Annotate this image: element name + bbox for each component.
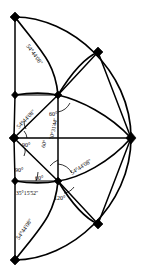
label-right-arc: 54°44'08'' [69, 158, 92, 176]
label-center-90-upper: 90° [22, 142, 31, 148]
label-lower-35: 35°15'52'' [16, 190, 38, 196]
geometry-svg: 54°44'08'' 54°44'08'' 60° 90° 70°31'44''… [0, 0, 141, 278]
inner-arc-lower-right [58, 138, 131, 181]
angle-arc-60-upper [58, 103, 70, 112]
label-upper-left-arc: 54°44'08'' [25, 43, 44, 66]
angle-arc-90-upper [24, 131, 27, 138]
node-mid-left-upper [12, 91, 19, 99]
inner-arc-upper-right [58, 95, 131, 138]
label-upper-inner-60: 60° [49, 111, 58, 117]
label-lower-120: 120° [54, 195, 66, 201]
edge-arc-lower-to-right [98, 138, 131, 224]
label-inner-60-vertical: 60° [40, 139, 47, 148]
node-mid-left-lower [12, 177, 19, 185]
edge-left-spine-mid-lower [14, 138, 15, 181]
edge-inner-upper-to-arc-node [58, 52, 98, 95]
label-lower-left-arc: 54°44'08'' [15, 218, 33, 241]
edge-arc-upper-to-right [98, 52, 131, 138]
edge-inner-lower-to-arc-node [58, 181, 98, 224]
geometry-diagram: 54°44'08'' 54°44'08'' 60° 90° 70°31'44''… [0, 0, 141, 278]
label-left-90: 90° [15, 167, 24, 173]
edge-left-spine-mid-upper [14, 95, 15, 138]
label-inner-70: 70°31'44'' [48, 117, 58, 140]
angle-arc-70-inner [50, 160, 58, 166]
label-lower-60: 60° [35, 175, 44, 181]
